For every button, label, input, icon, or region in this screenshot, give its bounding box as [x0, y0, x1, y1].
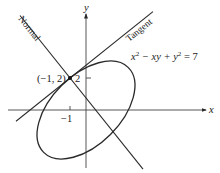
- y-tick-label: 2: [75, 73, 80, 84]
- x-tick-label: −1: [61, 113, 72, 124]
- point-of-tangency: [68, 76, 72, 80]
- tangent-normal-diagram: (−1, 2) 2 −1 y x Tangent Normal x2 − xy …: [0, 0, 220, 173]
- x-axis-label: x: [208, 104, 214, 115]
- tangent-label: Tangent: [124, 16, 154, 43]
- eq-rhs: = 7: [181, 51, 197, 62]
- point-label: (−1, 2): [37, 73, 66, 85]
- normal-label: Normal: [16, 14, 42, 43]
- eq-mid: − xy +: [139, 51, 173, 62]
- equation-label: x2 − xy + y2 = 7: [130, 50, 198, 62]
- y-axis-label: y: [83, 2, 89, 13]
